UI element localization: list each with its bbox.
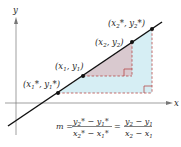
svg-text:=: = [114,122,121,131]
slope-formula: m = y2* − y1* x2* − x1* = y2 − y1 x2 − x… [56,117,153,139]
svg-text:y2* − y1*: y2* − y1* [72,117,109,127]
point-x1star-y1star [56,91,60,95]
svg-text:m =: m = [56,122,73,131]
label-x1star-y1star: (x1*, y1*) [23,79,60,90]
x-axis-label: x [174,98,179,108]
point-x1-y1 [81,74,85,78]
label-x2-y2: (x2, y2) [95,37,124,48]
point-x2star-y2star [150,27,154,31]
svg-text:x2 − x1: x2 − x1 [125,129,153,139]
svg-text:x2* − x1*: x2* − x1* [73,129,109,139]
y-axis-label: y [12,5,18,15]
svg-text:y2 − y1: y2 − y1 [124,117,153,127]
label-x1-y1: (x1, y1) [55,61,84,72]
slope-diagram: x y (x1*, y1*) (x1, y1) (x2, y2) (x2*, y… [0,0,181,147]
label-x2star-y2star: (x2*, y2*) [108,18,145,29]
point-x2-y2 [130,40,134,44]
x-axis-arrow-icon [166,101,173,105]
y-axis-arrow-icon [14,17,18,24]
